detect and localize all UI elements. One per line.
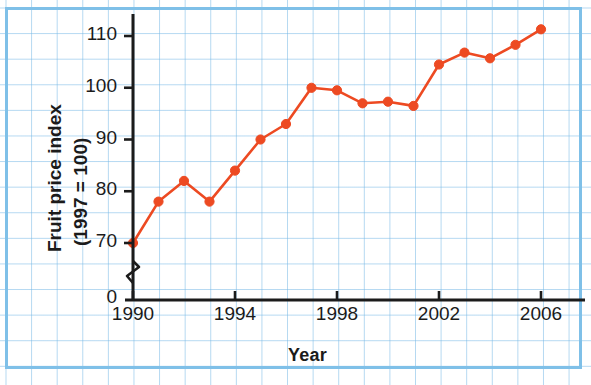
data-point-marker [256, 135, 265, 144]
series-layer [128, 25, 545, 248]
line-chart-plot [0, 0, 591, 385]
axis-layer [124, 14, 585, 300]
data-point-marker [179, 176, 188, 185]
data-point-marker [434, 60, 443, 69]
data-point-marker [230, 166, 239, 175]
data-point-marker [511, 40, 520, 49]
data-point-marker [536, 25, 545, 34]
series-line [133, 29, 541, 243]
data-point-marker [460, 48, 469, 57]
data-point-marker [154, 197, 163, 206]
data-point-marker [485, 54, 494, 63]
data-point-marker [383, 97, 392, 106]
data-point-marker [332, 86, 341, 95]
data-point-marker [409, 101, 418, 110]
data-point-marker [358, 99, 367, 108]
data-point-marker [205, 197, 214, 206]
data-point-marker [281, 119, 290, 128]
chart-page: Fruit price index (1997 = 100) Year 7080… [0, 0, 591, 385]
data-point-marker [307, 83, 316, 92]
